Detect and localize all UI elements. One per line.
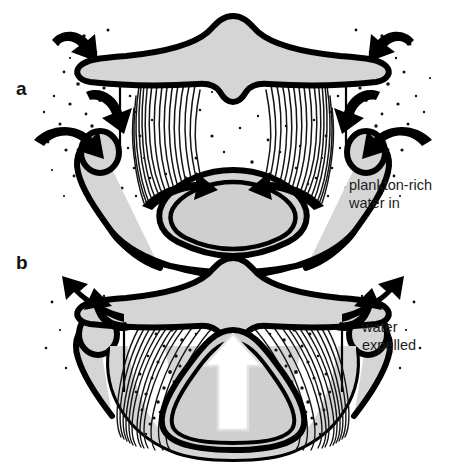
tongue-inner-a <box>171 182 296 249</box>
caption-a-line2: water in <box>349 194 466 212</box>
caption-b-line1: water <box>362 318 466 336</box>
panel-label-a: a <box>16 78 27 100</box>
caption-plankton-rich-water-in: plankton-rich water in <box>349 176 466 212</box>
baleen-feeding-figure <box>0 0 466 468</box>
rostrum-a <box>77 16 389 102</box>
caption-water-expelled: water expelled <box>362 318 466 354</box>
caption-a-line1: plankton-rich <box>349 176 466 194</box>
panel-b <box>45 258 422 459</box>
caption-b-line2: expelled <box>362 336 466 354</box>
panel-a <box>34 16 432 276</box>
panel-label-b: b <box>16 252 28 274</box>
